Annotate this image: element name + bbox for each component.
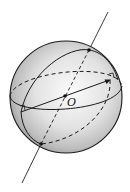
north-pole-point <box>87 48 91 52</box>
south-pole-point <box>39 142 43 146</box>
axis-line-bottom <box>22 144 41 183</box>
center-label: O <box>67 97 76 108</box>
axis-line-top <box>89 12 108 50</box>
sphere-diagram <box>0 0 130 192</box>
